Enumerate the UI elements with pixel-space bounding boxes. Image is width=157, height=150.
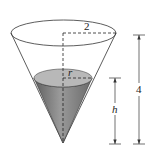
water-height-label: h bbox=[112, 103, 118, 115]
total-height-label: 4 bbox=[136, 83, 142, 95]
cone-diagram: 2 r 4 h bbox=[0, 0, 157, 150]
top-radius-label: 2 bbox=[84, 20, 90, 32]
water-radius-label: r bbox=[68, 66, 73, 78]
